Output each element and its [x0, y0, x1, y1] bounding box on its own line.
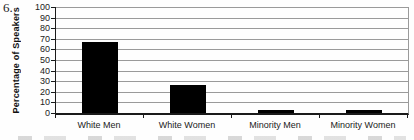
gridline — [56, 7, 408, 8]
gridline — [56, 39, 408, 40]
bar-minority-men — [258, 110, 294, 113]
bar-minority-women — [346, 110, 382, 113]
bar-white-women — [170, 85, 206, 113]
y-tick-label: 20 — [24, 87, 50, 97]
y-tick-label: 60 — [24, 44, 50, 54]
x-axis-tick — [231, 115, 232, 118]
y-axis-tick — [51, 81, 55, 82]
y-tick-label: 30 — [24, 76, 50, 86]
y-axis-title: Percentage of Speakers — [9, 7, 23, 113]
y-axis-tick — [51, 113, 55, 114]
cropped-caption-fragment — [18, 136, 406, 140]
y-axis-tick — [51, 71, 55, 72]
y-tick-label: 70 — [24, 34, 50, 44]
gridline — [56, 28, 408, 29]
plot-area — [55, 7, 409, 115]
y-axis-tick — [51, 28, 55, 29]
y-tick-label: 90 — [24, 13, 50, 23]
y-tick-label: 40 — [24, 66, 50, 76]
x-category-label: White Men — [55, 120, 143, 130]
y-axis-tick — [51, 60, 55, 61]
bar-white-men — [82, 42, 118, 113]
y-axis-tick — [51, 39, 55, 40]
x-category-label: Minority Men — [231, 120, 319, 130]
x-category-label: Minority Women — [319, 120, 407, 130]
y-axis-tick — [51, 18, 55, 19]
y-axis-tick — [51, 92, 55, 93]
y-tick-label: 100 — [24, 2, 50, 12]
gridline — [56, 18, 408, 19]
x-axis-tick — [55, 115, 56, 118]
y-axis-tick — [51, 49, 55, 50]
x-category-label: White Women — [143, 120, 231, 130]
chart: 6. Percentage of Speakers 01020304050607… — [0, 0, 414, 140]
y-tick-label: 50 — [24, 55, 50, 65]
y-axis-title-text: Percentage of Speakers — [11, 7, 21, 113]
y-tick-label: 10 — [24, 97, 50, 107]
y-axis-tick — [51, 102, 55, 103]
y-axis-tick — [51, 7, 55, 8]
y-tick-label: 0 — [24, 108, 50, 118]
x-axis-tick — [407, 115, 408, 118]
x-axis-tick — [319, 115, 320, 118]
y-tick-label: 80 — [24, 23, 50, 33]
x-axis-tick — [143, 115, 144, 118]
